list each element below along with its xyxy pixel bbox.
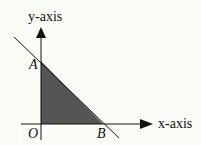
x-axis-label: x-axis <box>158 117 192 131</box>
point-A-label: A <box>29 58 38 72</box>
point-B-label: B <box>97 127 106 141</box>
y-axis-label: y-axis <box>28 10 62 24</box>
y-axis-arrow-icon <box>36 27 46 38</box>
point-O-label: O <box>28 127 38 141</box>
x-axis-arrow-icon <box>140 119 153 129</box>
